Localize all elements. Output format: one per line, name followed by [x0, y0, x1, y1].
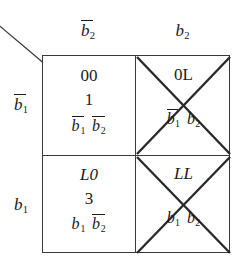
column-header-b2-label: b2 — [176, 22, 190, 41]
corner-diagonal-slash-icon — [0, 13, 48, 71]
table-cell[interactable]: 0L b1b2 — [136, 56, 231, 155]
flow-table-figure: b2 b2 b1 b1 00 1 b1b2 0L — [0, 0, 248, 271]
cell-term-literal: b1 — [72, 118, 86, 136]
row-header-b1-bar: b1 — [0, 96, 42, 115]
cell-term-literal: b1 — [167, 210, 180, 228]
table-cell[interactable]: 00 1 b1b2 — [43, 56, 135, 155]
cell-state-code: 00 — [43, 67, 135, 84]
cell-term-literal: b2 — [187, 111, 200, 129]
row-header-b1-label: b1 — [14, 196, 28, 215]
cell-term: b1b2 — [136, 111, 231, 129]
cell-output-code: LL — [136, 165, 231, 182]
cell-state-number: 1 — [43, 91, 135, 108]
cell-term-literal: b2 — [187, 210, 200, 228]
cell-term: b1b2 — [43, 118, 135, 136]
table-grid: 00 1 b1b2 0L b1b2 L0 3 b1b2 — [42, 55, 230, 253]
cell-state-code: L0 — [43, 166, 135, 183]
cell-term-literal: b2 — [92, 118, 106, 136]
row-header-b1: b1 — [0, 196, 42, 215]
column-header-b2: b2 — [135, 22, 230, 41]
cell-term-literal: b1 — [167, 111, 180, 129]
cell-term: b1b2 — [43, 216, 135, 234]
column-header-b2-bar-label: b2 — [81, 22, 95, 41]
cell-term: b1b2 — [136, 210, 231, 228]
cell-output-code: 0L — [136, 66, 231, 83]
cell-term-literal: b2 — [92, 216, 106, 234]
table-cell[interactable]: L0 3 b1b2 — [43, 156, 135, 254]
table-cell[interactable]: LL b1b2 — [136, 156, 231, 254]
column-header-b2-bar: b2 — [42, 22, 134, 41]
cell-term-literal: b1 — [72, 216, 86, 234]
cell-state-number: 3 — [43, 190, 135, 207]
row-header-b1-bar-label: b1 — [14, 96, 28, 115]
